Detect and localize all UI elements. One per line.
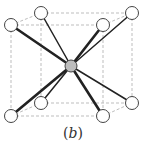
corner-atom-front-bottom-right [97, 110, 110, 123]
corner-atom-back-bottom-left [35, 97, 48, 110]
bond-back-bottom-left [41, 66, 71, 103]
corner-atom-front-top-left [5, 19, 18, 32]
caption-close: ) [77, 125, 82, 141]
bond-front-top-right [71, 25, 103, 66]
corner-atom-back-top-left [35, 7, 48, 20]
corner-atom-back-top-right [126, 7, 139, 20]
corner-atom-front-bottom-left [5, 110, 18, 123]
center-atom [65, 60, 77, 72]
bond-back-top-left [41, 13, 71, 66]
figure-caption: (b) [0, 125, 146, 141]
bond-back-bottom-right [71, 66, 132, 103]
bond-front-bottom-right [71, 66, 103, 116]
corner-atom-back-bottom-right [126, 97, 139, 110]
corner-atom-front-top-right [97, 19, 110, 32]
center-atom-group [65, 60, 77, 72]
